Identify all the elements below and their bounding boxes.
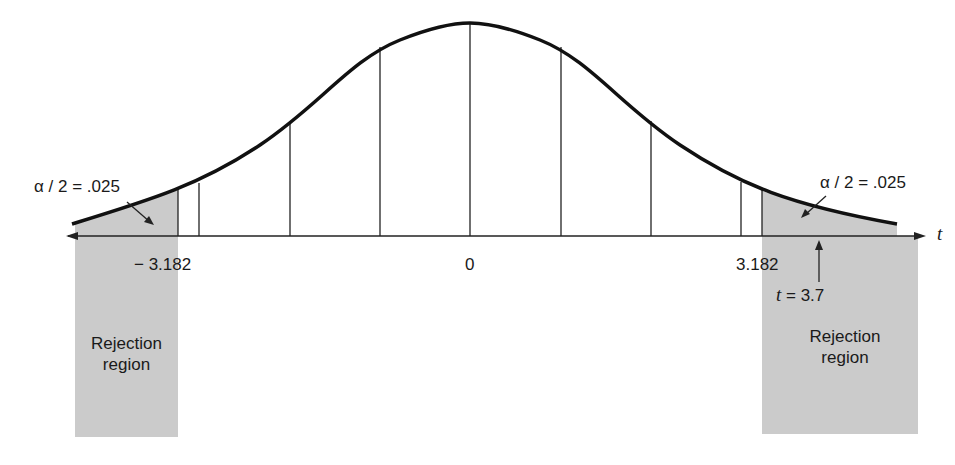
t-distribution-diagram xyxy=(0,0,955,465)
left-rejection-line1: Rejection xyxy=(75,333,178,354)
test-stat-variable: t xyxy=(776,284,781,305)
density-curve xyxy=(72,23,897,224)
right-tail-label: α / 2 = .025 xyxy=(820,173,906,193)
vertical-gridlines xyxy=(178,23,762,236)
right-critical-value: 3.182 xyxy=(736,255,779,275)
center-tick-label: 0 xyxy=(465,255,474,275)
left-rejection-line2: region xyxy=(75,354,178,375)
right-rejection-line1: Rejection xyxy=(775,326,915,347)
left-critical-value: − 3.182 xyxy=(134,255,191,275)
right-rejection-line2: region xyxy=(775,347,915,368)
test-stat-value: = 3.7 xyxy=(786,286,824,305)
left-rejection-label: Rejection region xyxy=(75,333,178,375)
axis-right-arrow-icon xyxy=(914,232,926,240)
right-rejection-label: Rejection region xyxy=(775,326,915,368)
axis-left-arrow-icon xyxy=(66,232,78,240)
test-statistic-label: t = 3.7 xyxy=(776,284,824,306)
axis-label: t xyxy=(937,223,942,245)
left-tail-label: α / 2 = .025 xyxy=(34,177,120,197)
